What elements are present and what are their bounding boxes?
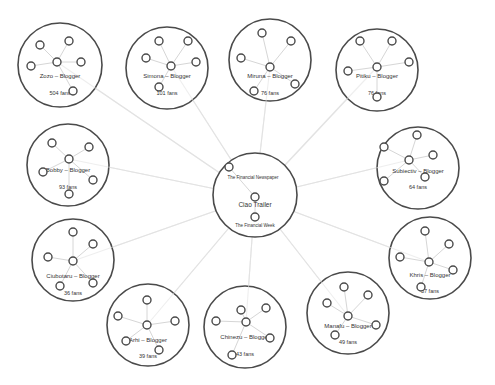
hub-group: The Financial Newspaper Ciao Trailer The… — [213, 153, 297, 237]
fan-node — [69, 228, 77, 236]
fan-node — [65, 37, 73, 45]
blogger-node — [69, 257, 77, 265]
cluster-label: Bobby – Blogger — [46, 167, 90, 173]
fan-node — [421, 173, 429, 181]
fan-node — [155, 83, 163, 91]
fan-node — [89, 240, 97, 248]
fans-count: 43 fans — [236, 351, 254, 357]
fan-node — [89, 176, 97, 184]
hub-top-label: The Financial Newspaper — [227, 175, 279, 180]
fan-node — [405, 58, 413, 66]
fan-node — [184, 37, 192, 45]
fan-node — [340, 283, 348, 291]
fan-node — [237, 306, 245, 314]
blogger-node — [65, 155, 73, 163]
fan-node — [344, 67, 352, 75]
cluster-label: Khris – Blogger — [409, 272, 450, 278]
fan-node — [44, 253, 52, 261]
cluster-label: Subiectiv – Blogger — [392, 168, 444, 174]
hub-bottom-label: The Financial Week — [235, 223, 275, 228]
fan-node — [380, 177, 388, 185]
fan-node — [417, 283, 425, 291]
fans-count: 64 fans — [409, 184, 427, 190]
fan-node — [48, 139, 56, 147]
fan-node — [114, 312, 122, 320]
fan-node — [69, 87, 77, 95]
fan-node — [39, 168, 47, 176]
fan-node — [372, 321, 380, 329]
fan-node — [85, 143, 93, 151]
fan-node — [356, 37, 364, 45]
fan-node — [77, 58, 85, 66]
network-diagram-canvas: Zozo – Blogger504 fansSimona – Blogger10… — [0, 0, 495, 385]
fan-node — [380, 143, 388, 151]
fan-node — [258, 29, 266, 37]
fan-node — [331, 331, 339, 339]
fans-count: 76 fans — [261, 90, 279, 96]
fan-node — [212, 317, 220, 325]
fan-node — [396, 253, 404, 261]
fan-node — [56, 282, 64, 290]
fan-node — [364, 291, 372, 299]
fan-node — [413, 131, 421, 139]
fan-node — [36, 41, 44, 49]
cluster-label: Ciubotaru – Blogger — [46, 273, 99, 279]
cluster-label: Zozo – Blogger — [40, 73, 81, 79]
blogger-node — [53, 58, 61, 66]
fan-node — [262, 304, 270, 312]
blogger-node — [266, 63, 274, 71]
blogger-node — [344, 312, 352, 320]
fan-node — [250, 87, 258, 95]
fan-node — [142, 54, 150, 62]
blogger-node — [405, 156, 413, 164]
cluster-label: Miruna – Blogger — [247, 73, 293, 79]
fan-node — [228, 351, 236, 359]
fans-count: 36 fans — [64, 290, 82, 296]
fan-node — [155, 37, 163, 45]
fan-node — [287, 37, 295, 45]
fan-node — [237, 54, 245, 62]
fan-node — [65, 190, 73, 198]
fans-count: 49 fans — [339, 339, 357, 345]
blogger-node — [425, 258, 433, 266]
cluster-label: Simona – Blogger — [143, 73, 191, 79]
fan-node — [143, 296, 151, 304]
fan-node — [192, 58, 200, 66]
fan-node — [388, 37, 396, 45]
fan-node — [171, 317, 179, 325]
cluster-label: Chinezu – Blogger — [220, 334, 269, 340]
fan-node — [323, 299, 331, 307]
blogger-node — [143, 321, 151, 329]
fan-node — [373, 93, 381, 101]
fan-node — [421, 227, 429, 235]
cluster-label: Manafu – Blogger — [324, 323, 371, 329]
fan-node — [89, 279, 97, 287]
fan-node — [122, 337, 130, 345]
fan-node — [155, 346, 163, 354]
fan-node — [266, 334, 274, 342]
blogger-network-diagram: Zozo – Blogger504 fansSimona – Blogger10… — [0, 0, 495, 385]
fan-node — [449, 266, 457, 274]
blogger-node — [373, 63, 381, 71]
hub-node — [225, 163, 233, 171]
fans-count: 93 fans — [59, 184, 77, 190]
fans-count: 39 fans — [139, 353, 157, 359]
fans-count: 504 fans — [49, 90, 70, 96]
fan-node — [429, 151, 437, 159]
hub-node — [251, 193, 259, 201]
fan-node — [291, 80, 299, 88]
blogger-node — [167, 62, 175, 70]
fan-node — [445, 240, 453, 248]
hub-label: Ciao Trailer — [238, 201, 272, 208]
fan-node — [27, 62, 35, 70]
cluster-label: Pitiku – Blogger — [356, 73, 398, 79]
blogger-node — [242, 318, 250, 326]
cluster-label: Arhi – Blogger — [129, 337, 167, 343]
hub-node — [251, 213, 259, 221]
